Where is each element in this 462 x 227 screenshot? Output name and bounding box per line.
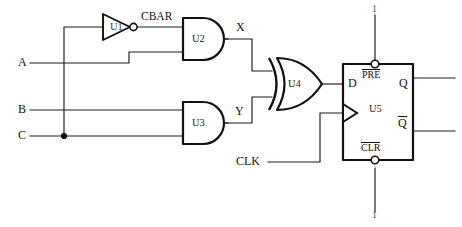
input-label-a: A	[18, 56, 27, 68]
wire-clk-to-ff	[268, 113, 343, 162]
net-label-cbar: CBAR	[141, 11, 172, 23]
gate-label-u4: U4	[288, 79, 301, 90]
clr-overline: CLR	[361, 142, 380, 154]
gate-label-u1: U1	[110, 22, 123, 33]
ff-port-label-d: D	[348, 77, 357, 89]
input-label-b: B	[18, 103, 26, 115]
input-label-clk: CLK	[236, 155, 260, 167]
net-label-x: X	[236, 21, 245, 33]
ff-port-label-qbar: Q	[398, 116, 407, 130]
wire-y-to-xor	[223, 97, 272, 123]
wire-c-to-inverter	[64, 27, 103, 136]
schematic-svg	[0, 0, 462, 227]
inverter-u1-bubble	[130, 23, 137, 30]
pre-overline: PRE	[362, 69, 380, 81]
circuit-diagram: A B C CLK U1 U2 U3 U4 U5 CBAR X Y D Q Q …	[0, 0, 462, 227]
wire-a-to-u2	[30, 52, 183, 63]
ff-port-label-clr: CLR	[361, 142, 380, 154]
tie-high-label-clr: 1	[372, 210, 377, 220]
wire-x-to-xor	[223, 39, 272, 71]
junction-dot-c	[61, 133, 67, 139]
xor-gate-u4-outer-arc	[269, 58, 277, 110]
ff-port-label-q: Q	[399, 77, 408, 89]
clr-bubble-icon	[371, 156, 379, 164]
ff-port-label-pre: PRE	[362, 69, 380, 81]
pre-bubble-icon	[371, 60, 379, 68]
gate-label-u3: U3	[192, 118, 205, 129]
input-label-c: C	[18, 129, 26, 141]
qbar-overline: Q	[398, 116, 407, 130]
net-label-y: Y	[235, 105, 244, 117]
gate-label-u2: U2	[192, 34, 205, 45]
tie-high-label-pre: 1	[372, 4, 377, 14]
gate-label-u5: U5	[369, 104, 382, 115]
